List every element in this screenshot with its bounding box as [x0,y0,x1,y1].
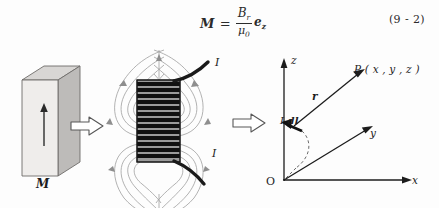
origin-label: O [266,176,275,187]
solenoid-drawing [104,48,234,203]
equation-lhs: M [200,16,215,31]
solenoid-windings [137,84,180,156]
point-label-P: P ( x , y , z ) [354,64,420,75]
axis-y [284,126,373,180]
panel-solenoid [104,48,234,203]
magnet-front-face [22,80,58,176]
equation-numerator: Br [236,7,252,23]
axis-label-x: x [412,175,418,186]
current-element-label: I dl [280,116,299,126]
equation-unit-vector: ez [254,15,266,31]
arrow-magnet-to-solenoid [70,115,104,137]
magnetization-label: M [36,178,49,190]
equation-fraction: Br μ0 [236,7,252,39]
current-label-top: I [215,57,219,68]
vector-label-r: r [312,91,318,102]
physics-figure: M = Br μ0 ez (9 - 2) M [0,0,439,208]
axis-label-z: z [291,55,297,66]
axis-x [284,177,412,184]
equation-denominator: μ0 [236,24,252,39]
arrow-solenoid-to-coords [232,112,266,134]
equation-magnetization: M = Br μ0 ez [178,6,288,40]
equation-equals-sign: = [220,16,231,31]
block-arrow-right-icon [70,115,104,137]
equation-number: (9 - 2) [389,13,425,26]
block-arrow-right-icon [232,112,266,134]
solenoid-lead-top [174,62,208,81]
axis-label-y: y [370,128,376,139]
vector-r [294,69,365,126]
origin-point [283,179,285,181]
current-label-bottom: I [212,148,216,159]
